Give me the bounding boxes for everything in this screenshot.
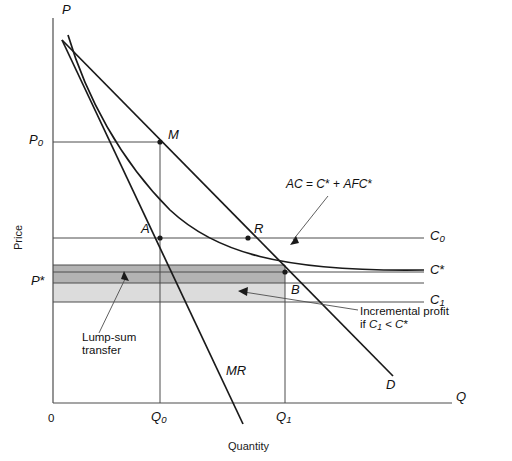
x-tick-Q1-base: Q (276, 409, 286, 424)
x-tick-Q1-sub: 1 (286, 414, 291, 425)
point-label-M: M (168, 128, 179, 143)
annotation-lump-sum-line2: transfer (82, 344, 136, 357)
x-axis-symbol: Q (456, 390, 466, 405)
y-tick-Pstar-base: P (31, 273, 40, 288)
annotation-incremental-profit-line1: Incremental profit (360, 305, 449, 318)
annotation-lump-sum: Lump-sum transfer (82, 331, 136, 357)
point-label-A: A (141, 222, 150, 237)
curve-label-marginal-revenue: MR (226, 364, 246, 379)
point-label-R: R (254, 222, 263, 237)
x-tick-Q0: Q0 (151, 410, 166, 425)
y-axis-title: Price (12, 225, 25, 250)
y-axis-symbol: P (62, 3, 71, 18)
annotation-incremental-profit-line2: if C1 < C* (360, 318, 449, 333)
demand-curve (62, 40, 393, 376)
origin-label: 0 (48, 412, 54, 425)
average-cost-curve (68, 35, 424, 270)
ac-annotation-arrowhead (290, 236, 299, 245)
curve-label-average-cost: AC = C* + AFC* (286, 178, 372, 192)
y-tick-P0-base: P (29, 132, 38, 147)
y-tick-P0: P0 (29, 133, 43, 148)
cost-label-C0: C0 (430, 229, 445, 244)
x-tick-Q0-sub: 0 (161, 414, 166, 425)
y-tick-P0-sub: 0 (38, 137, 43, 148)
point-marker-B (282, 269, 287, 274)
x-tick-Q0-base: Q (151, 409, 161, 424)
point-marker-M (157, 139, 162, 144)
y-tick-Pstar: P* (31, 274, 45, 289)
annotation-lump-sum-line1: Lump-sum (82, 331, 136, 344)
curve-label-demand: D (386, 378, 395, 393)
point-marker-R (245, 235, 250, 240)
cost-label-C0-sub: 0 (439, 233, 444, 244)
point-label-B: B (291, 283, 300, 298)
cost-label-Cstar-base: C (430, 262, 439, 277)
annotation-incremental-profit: Incremental profit if C1 < C* (360, 305, 449, 333)
point-marker-A (157, 235, 162, 240)
cost-label-Cstar: C* (430, 263, 444, 278)
ac-annotation-leader (293, 196, 328, 240)
marginal-revenue-curve (62, 40, 243, 424)
incremental-profit-region (53, 283, 285, 302)
cost-label-C0-base: C (430, 228, 439, 243)
x-axis-title: Quantity (228, 440, 269, 453)
x-tick-Q1: Q1 (276, 410, 291, 425)
